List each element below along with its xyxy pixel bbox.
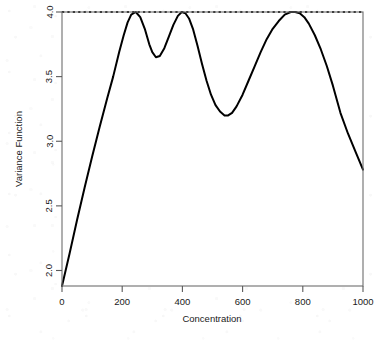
x-tick-label: 200 bbox=[114, 296, 130, 307]
x-axis-title: Concentration bbox=[182, 313, 241, 324]
y-axis-title: Variance Function bbox=[13, 111, 24, 187]
x-tick-label: 0 bbox=[59, 296, 64, 307]
y-tick-label: 3.5 bbox=[44, 70, 55, 83]
y-tick-label: 4.0 bbox=[44, 5, 55, 18]
plot-canvas: 02004006008001000 2.02.53.03.54.0 Concen… bbox=[0, 0, 383, 345]
y-axis-ticks bbox=[56, 12, 62, 270]
x-tick-label: 800 bbox=[295, 296, 311, 307]
y-axis-tick-labels: 2.02.53.03.54.0 bbox=[44, 5, 55, 277]
plot-panel-background bbox=[62, 12, 363, 286]
x-axis-tick-labels: 02004006008001000 bbox=[59, 296, 373, 307]
y-tick-label: 2.5 bbox=[44, 199, 55, 212]
x-tick-label: 600 bbox=[235, 296, 251, 307]
x-axis-ticks bbox=[62, 286, 363, 292]
variance-function-plot: 02004006008001000 2.02.53.03.54.0 Concen… bbox=[0, 0, 383, 345]
x-tick-label: 1000 bbox=[352, 296, 373, 307]
y-tick-label: 2.0 bbox=[44, 264, 55, 277]
y-tick-label: 3.0 bbox=[44, 135, 55, 148]
x-tick-label: 400 bbox=[174, 296, 190, 307]
